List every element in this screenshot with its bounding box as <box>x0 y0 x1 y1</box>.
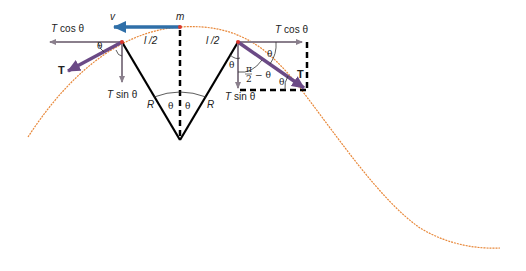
left-tsin-label: Tsin θ <box>107 89 138 100</box>
radius-right-label: R <box>207 99 214 110</box>
left-tension-arrow <box>68 42 122 71</box>
string-pulse-diagram: v m l /2 l /2 R R θ θ Tcos θ θ T Tsin θ … <box>0 0 526 271</box>
pi-label: π <box>246 64 252 74</box>
half-length-right-label: l /2 <box>206 35 220 46</box>
half-length-left-label: l /2 <box>144 35 158 46</box>
right-tension-label: T <box>297 68 304 80</box>
right-tsin-label: Tsin θ <box>225 91 256 102</box>
right-theta-bottom-label: θ <box>279 77 284 87</box>
left-point <box>120 40 124 44</box>
right-point <box>236 40 240 44</box>
apex-theta-right: θ <box>185 101 190 111</box>
left-tension-label: T <box>58 64 65 76</box>
left-theta-label: θ <box>97 41 102 51</box>
minus-theta-label: − θ <box>255 70 271 80</box>
apex-theta-left: θ <box>168 101 173 111</box>
right-theta-left-label: θ <box>229 60 234 70</box>
right-theta-top-label: θ <box>267 49 272 59</box>
left-tcos-label: Tcos θ <box>51 23 84 34</box>
mass-point <box>178 25 182 29</box>
radius-left-label: R <box>147 99 154 110</box>
velocity-label: v <box>110 11 116 22</box>
two-label: 2 <box>246 74 252 84</box>
mass-label: m <box>176 11 184 22</box>
right-tcos-label: Tcos θ <box>275 24 308 35</box>
